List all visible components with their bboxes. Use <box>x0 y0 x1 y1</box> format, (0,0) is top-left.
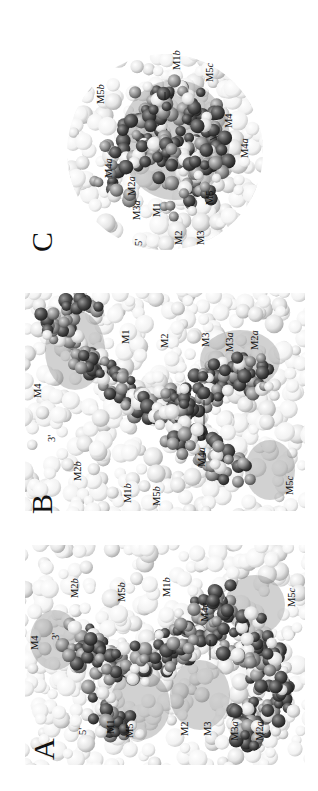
background-atom <box>201 506 211 516</box>
rna-atom <box>164 176 179 191</box>
background-atom <box>298 492 314 508</box>
background-atom <box>129 246 146 263</box>
background-atom <box>158 236 174 252</box>
background-atom <box>110 50 128 68</box>
background-atom <box>55 197 69 211</box>
label-base: M4 <box>223 113 234 128</box>
label-base: M1 <box>171 55 182 70</box>
label-base: M2 <box>254 726 265 741</box>
background-atom <box>98 117 117 136</box>
rna-atom <box>229 705 242 718</box>
background-atom <box>14 613 29 628</box>
label-base: M2 <box>179 721 190 736</box>
background-atom <box>15 548 28 561</box>
rna-atom <box>174 617 188 631</box>
background-atom <box>80 234 97 251</box>
background-atom <box>262 144 275 157</box>
label-base: 5' <box>77 728 88 735</box>
background-atom <box>83 56 93 66</box>
rna-atom <box>216 646 231 661</box>
background-atom <box>246 210 262 226</box>
rna-atom <box>264 382 274 392</box>
background-atom <box>258 75 273 90</box>
background-atom <box>96 49 111 64</box>
structure-label: 5' <box>133 239 144 246</box>
structure-label: M5b <box>151 486 162 506</box>
background-atom <box>106 78 120 92</box>
background-atom <box>25 762 39 776</box>
structure-label: M2a <box>254 721 265 741</box>
background-atom <box>74 67 85 78</box>
background-atom <box>210 239 226 255</box>
background-atom <box>57 154 67 164</box>
background-atom <box>188 46 204 62</box>
background-atom <box>253 190 264 201</box>
rna-atom <box>254 679 268 693</box>
rna-atom <box>187 206 197 216</box>
background-atom <box>50 538 65 553</box>
rna-atom <box>182 114 192 124</box>
structure-label: M3 <box>200 332 211 347</box>
background-atom <box>83 68 97 82</box>
rna-atom <box>75 361 88 374</box>
rna-atom <box>165 404 180 419</box>
rna-atom <box>256 353 266 363</box>
rna-atom <box>68 620 82 634</box>
background-atom <box>170 321 184 335</box>
rna-atom <box>88 713 99 724</box>
background-atom <box>170 477 186 493</box>
structure-label: M4a <box>239 138 250 158</box>
background-atom <box>248 306 264 322</box>
background-atom <box>238 221 258 241</box>
structure-label: M2 <box>173 230 184 245</box>
rna-atom <box>179 399 189 409</box>
rna-atom <box>269 680 282 693</box>
label-base: M5 <box>151 491 162 506</box>
rna-atom <box>272 714 286 728</box>
structure-label: M1b <box>171 50 182 70</box>
background-atom <box>91 60 104 73</box>
rna-atom <box>149 105 159 115</box>
structure-label: M1 <box>151 202 162 217</box>
background-atom <box>301 699 312 710</box>
background-atom <box>161 763 172 774</box>
rna-atom <box>139 156 151 168</box>
background-atom <box>87 247 98 258</box>
rna-atom <box>262 648 274 660</box>
background-atom <box>302 710 318 727</box>
rna-atom <box>176 448 188 460</box>
background-atom <box>264 552 279 567</box>
background-atom <box>240 68 253 81</box>
background-atom <box>39 560 53 574</box>
structure-label: M4 <box>223 113 234 128</box>
rna-atom <box>185 440 196 451</box>
background-atom <box>283 630 294 641</box>
background-atom <box>175 372 186 383</box>
label-base: M5 <box>116 587 127 602</box>
background-atom <box>207 555 224 572</box>
label-base: M4 <box>103 163 114 178</box>
label-suffix: a <box>103 158 114 163</box>
background-atom <box>213 49 226 62</box>
background-atom <box>221 208 238 225</box>
label-suffix: a <box>229 721 240 726</box>
rna-atom <box>230 648 244 662</box>
panel-b: B M43'M2bM1bM5bM1M2M3M3aM2aM4aM5c <box>13 279 317 526</box>
rna-atom <box>212 440 224 452</box>
background-atom <box>250 214 261 225</box>
rna-atom <box>96 686 109 699</box>
rna-atom <box>162 102 172 112</box>
background-atom <box>255 231 273 249</box>
rna-atom <box>81 680 96 695</box>
background-atom <box>259 415 275 431</box>
structure-label: M5 <box>204 190 215 205</box>
background-atom <box>254 539 268 553</box>
background-atom <box>14 409 31 426</box>
background-atom <box>250 223 270 243</box>
rna-atom <box>168 74 181 87</box>
structure-label: 3' <box>46 435 57 442</box>
background-atom <box>259 134 273 148</box>
structure-label: M4a <box>103 158 114 178</box>
background-atom <box>89 441 106 458</box>
background-atom <box>96 213 116 233</box>
